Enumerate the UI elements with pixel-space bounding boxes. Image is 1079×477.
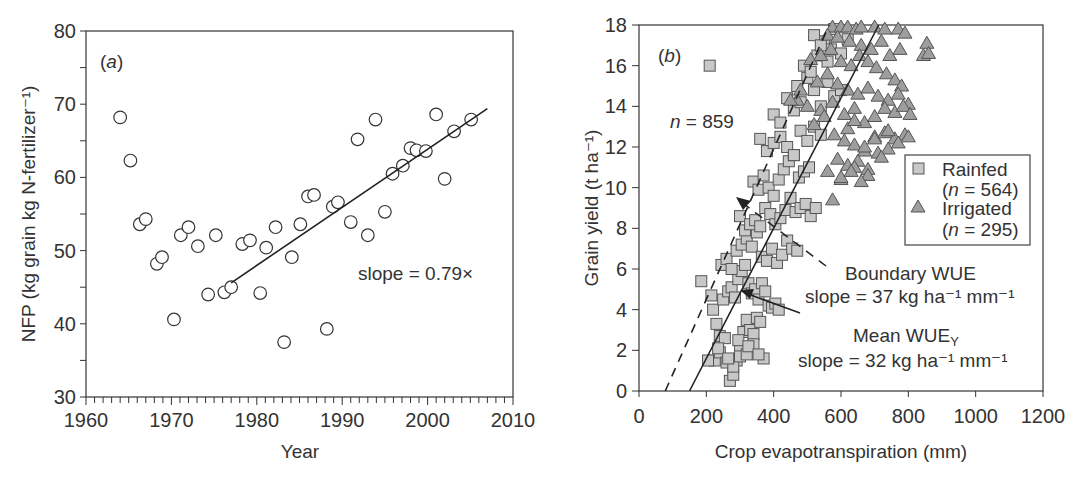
rainfed-point: [740, 259, 751, 270]
x-tick-label: 200: [690, 405, 723, 427]
n-total-annotation: n = 859: [670, 111, 734, 132]
rainfed-point: [746, 241, 757, 252]
rainfed-point: [810, 203, 821, 214]
data-point: [321, 323, 334, 336]
x-tick-label: 600: [824, 405, 857, 427]
rainfed-point: [753, 184, 764, 195]
data-point: [210, 229, 223, 242]
boundary-wue-title: Boundary WUE: [845, 263, 976, 284]
panel-a-chart: 196019701980199020002010304050607080 (a)…: [18, 20, 535, 462]
data-point: [269, 221, 282, 234]
y-tick-label: 10: [605, 177, 627, 199]
legend: Rainfed (n = 564) Irrigated (n = 295): [905, 155, 1030, 245]
x-tick-label: 2000: [405, 409, 450, 431]
rainfed-point: [753, 349, 764, 360]
x-tick-label: 1200: [1021, 405, 1066, 427]
rainfed-point: [729, 292, 740, 303]
x-tick-label: 1960: [64, 409, 109, 431]
data-point: [168, 313, 181, 326]
y-tick-label: 6: [616, 258, 627, 280]
y-tick-label: 16: [605, 55, 627, 77]
data-point: [438, 173, 451, 186]
x-tick-label: 800: [892, 405, 925, 427]
panel-a-y-axis-label: NFP (kg grain kg N-fertilizer⁻¹): [18, 86, 39, 343]
irrigated-point: [893, 42, 907, 54]
legend-irrigated-label: Irrigated: [942, 198, 1012, 219]
mean-wue-slope: slope = 32 kg ha⁻¹ mm⁻¹: [798, 350, 1008, 371]
data-point: [114, 111, 127, 124]
irrigated-point: [831, 152, 845, 164]
rainfed-point: [802, 135, 813, 146]
data-point: [260, 241, 273, 254]
rainfed-point: [733, 335, 744, 346]
y-tick-label: 50: [54, 240, 76, 262]
rainfed-point: [748, 329, 759, 340]
rainfed-point: [761, 255, 772, 266]
rainfed-point: [766, 243, 777, 254]
x-tick-label: 1970: [149, 409, 194, 431]
y-tick-label: 80: [54, 20, 76, 42]
rainfed-point: [708, 304, 719, 315]
legend-rainfed-count: (n = 564): [942, 179, 1019, 200]
x-tick-label: 1980: [235, 409, 280, 431]
x-tick-label: 400: [757, 405, 790, 427]
x-tick-label: 0: [633, 405, 644, 427]
data-point: [430, 108, 443, 121]
rainfed-square-icon: [913, 163, 924, 174]
rainfed-point: [765, 209, 776, 220]
data-point: [278, 336, 291, 349]
panel-a-x-axis-label: Year: [281, 441, 320, 462]
rainfed-point: [741, 314, 752, 325]
irrigated-point: [821, 67, 835, 79]
y-tick-label: 40: [54, 313, 76, 335]
y-tick-label: 0: [616, 380, 627, 402]
y-tick-label: 2: [616, 339, 627, 361]
rainfed-point: [755, 316, 766, 327]
rainfed-point: [735, 211, 746, 222]
irrigated-point: [920, 36, 934, 48]
panel-b-x-axis-label: Crop evapotranspiration (mm): [715, 441, 967, 462]
rainfed-point: [777, 249, 788, 260]
legend-irrigated-count: (n = 295): [942, 219, 1019, 240]
data-point: [244, 234, 257, 247]
legend-rainfed-label: Rainfed: [942, 159, 1008, 180]
mean-wue-line: [690, 25, 879, 391]
rainfed-point: [711, 318, 722, 329]
irrigated-point: [874, 34, 888, 46]
panel-a-label: (a): [100, 51, 123, 72]
boundary-wue-slope: slope = 37 kg ha⁻¹ mm⁻¹: [805, 286, 1015, 307]
data-point: [139, 213, 152, 226]
data-point: [351, 133, 364, 146]
irrigated-point: [861, 81, 875, 93]
y-tick-label: 12: [605, 136, 627, 158]
rainfed-point: [809, 30, 820, 41]
y-tick-label: 18: [605, 14, 627, 36]
panel-a-data-points: [114, 108, 478, 348]
rainfed-point: [755, 133, 766, 144]
mean-wue-title: Mean WUEY: [853, 325, 959, 349]
irrigated-point: [821, 164, 835, 176]
rainfed-point: [773, 174, 784, 185]
data-point: [254, 287, 267, 300]
data-point: [202, 288, 215, 301]
x-tick-label: 2010: [491, 409, 536, 431]
y-tick-label: 8: [616, 217, 627, 239]
data-point: [369, 113, 382, 126]
irrigated-point: [847, 101, 861, 113]
rainfed-point: [800, 198, 811, 209]
rainfed-point: [704, 60, 715, 71]
data-point: [124, 154, 137, 167]
y-tick-label: 30: [54, 386, 76, 408]
y-tick-label: 70: [54, 93, 76, 115]
data-point: [192, 240, 205, 253]
panel-b-chart: 020040060080010001200024681012141618 (b)…: [581, 14, 1065, 462]
data-point: [294, 218, 307, 231]
y-tick-label: 4: [616, 299, 627, 321]
data-point: [182, 221, 195, 234]
data-point: [379, 206, 392, 219]
x-tick-label: 1000: [953, 405, 998, 427]
panel-b-y-axis-label: Grain yield (t ha⁻¹): [581, 130, 602, 287]
rainfed-point: [760, 286, 771, 297]
rainfed-point: [696, 276, 707, 287]
rainfed-point: [743, 341, 754, 352]
